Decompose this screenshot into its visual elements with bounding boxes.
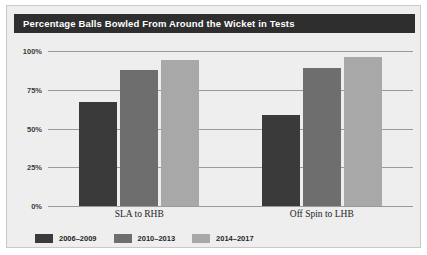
y-axis-tick-label: 25% (27, 163, 42, 172)
y-axis-tick-label: 100% (23, 47, 42, 56)
x-axis-category-label: Off Spin to LHB (290, 209, 354, 219)
legend-item[interactable]: 2006–2009 (35, 234, 97, 243)
plot-area: 0%25%50%75%100%SLA to RHBOff Spin to LHB (48, 51, 413, 206)
chart-legend: 2006–20092010–20132014–2017 (35, 234, 254, 243)
bar-sla-to-rhb-2010–2013 (120, 70, 158, 206)
legend-swatch-icon (114, 234, 132, 243)
y-axis-tick-label: 75% (27, 85, 42, 94)
page-title: Percentage Balls Bowled From Around the … (23, 18, 295, 29)
chart-title-bar: Percentage Balls Bowled From Around the … (14, 14, 415, 33)
bar-off-spin-to-lhb-2006–2009 (262, 115, 300, 206)
y-axis-tick-label: 50% (27, 124, 42, 133)
bar-off-spin-to-lhb-2010–2013 (303, 68, 341, 206)
x-axis-category-label: SLA to RHB (115, 209, 164, 219)
bar-off-spin-to-lhb-2014–2017 (344, 57, 382, 206)
legend-swatch-icon (35, 234, 53, 243)
legend-item[interactable]: 2010–2013 (114, 234, 176, 243)
gridline: 0% (48, 206, 413, 207)
chart-panel: Percentage Balls Bowled From Around the … (6, 5, 421, 248)
bar-sla-to-rhb-2014–2017 (161, 60, 199, 206)
gridline: 100% (48, 51, 413, 52)
bar-sla-to-rhb-2006–2009 (79, 102, 117, 206)
legend-swatch-icon (192, 234, 210, 243)
legend-item-label: 2014–2017 (216, 234, 254, 243)
y-axis-tick-label: 0% (31, 202, 42, 211)
legend-item-label: 2010–2013 (138, 234, 176, 243)
legend-item[interactable]: 2014–2017 (192, 234, 254, 243)
legend-item-label: 2006–2009 (59, 234, 97, 243)
